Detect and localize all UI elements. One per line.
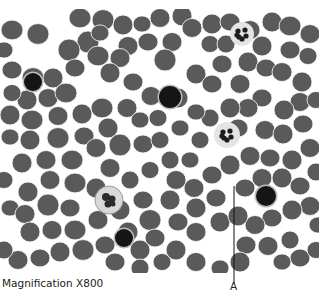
red-blood-cell	[201, 35, 219, 52]
red-blood-cell	[154, 49, 176, 71]
red-blood-cell	[50, 242, 70, 262]
red-blood-cell	[72, 240, 94, 261]
red-blood-cell	[91, 98, 113, 118]
red-blood-cell	[86, 139, 106, 158]
red-blood-cell	[18, 182, 38, 202]
red-blood-cell	[138, 33, 158, 51]
red-blood-cell	[272, 63, 292, 82]
red-blood-cell	[290, 177, 310, 195]
red-blood-cell	[300, 197, 320, 216]
red-blood-cell	[307, 91, 325, 108]
red-blood-cell	[58, 39, 80, 61]
red-blood-cell	[235, 179, 255, 197]
neutrophil-cell	[230, 22, 254, 46]
red-blood-cell	[105, 253, 125, 271]
red-blood-cell	[274, 100, 294, 120]
red-blood-cell	[3, 84, 21, 101]
red-blood-cell	[307, 241, 325, 258]
pointer-label-a: A	[230, 280, 237, 292]
red-blood-cell	[42, 221, 62, 240]
lymphocyte-cell	[255, 185, 278, 208]
red-blood-cell	[220, 155, 240, 175]
red-blood-cell	[168, 213, 188, 231]
red-blood-cell	[20, 222, 40, 242]
red-blood-cell	[230, 252, 250, 272]
red-blood-cell	[150, 9, 170, 28]
red-blood-cell	[228, 206, 248, 226]
red-blood-cell	[131, 112, 149, 128]
red-blood-cell	[260, 149, 280, 167]
red-blood-cell	[280, 41, 300, 59]
red-blood-cell	[255, 121, 275, 140]
red-blood-cell	[61, 150, 83, 170]
red-blood-cell	[240, 147, 260, 166]
red-blood-cell	[282, 150, 302, 170]
red-blood-cell	[37, 194, 59, 216]
lymphocyte-cell	[114, 228, 135, 249]
red-blood-cell	[27, 24, 49, 45]
red-blood-cell	[300, 25, 320, 44]
red-blood-cell	[65, 59, 85, 77]
red-blood-cell	[133, 191, 153, 209]
red-blood-cell	[300, 139, 320, 158]
red-blood-cell	[100, 63, 120, 83]
red-blood-cell	[55, 83, 77, 103]
red-blood-cell	[171, 120, 189, 136]
red-blood-cell	[293, 115, 313, 133]
red-blood-cell	[262, 12, 282, 32]
red-blood-cell	[238, 99, 258, 118]
red-blood-cell	[258, 237, 278, 256]
red-blood-cell	[202, 166, 222, 184]
red-blood-cell	[149, 109, 167, 126]
red-blood-cell	[184, 179, 204, 198]
red-blood-cell	[64, 173, 86, 193]
red-blood-cell	[64, 220, 86, 240]
red-blood-cell	[30, 249, 50, 267]
red-blood-cell	[95, 236, 115, 254]
red-blood-cell	[12, 153, 32, 173]
red-blood-cell	[69, 8, 91, 28]
red-blood-cell	[151, 131, 169, 148]
red-blood-cell	[273, 124, 293, 144]
red-blood-cell	[139, 210, 161, 231]
red-blood-cell	[272, 168, 292, 188]
red-blood-cell	[121, 171, 139, 189]
red-blood-cell	[72, 104, 92, 124]
red-blood-cell	[187, 104, 205, 120]
red-blood-cell	[48, 107, 68, 126]
red-blood-cell	[166, 171, 186, 190]
red-blood-cell	[252, 36, 272, 56]
red-blood-cell	[186, 198, 206, 218]
red-blood-cell	[309, 217, 327, 233]
red-blood-cell	[160, 190, 180, 210]
red-blood-cell	[182, 19, 202, 38]
red-blood-cell	[202, 75, 222, 93]
red-blood-cell	[191, 131, 209, 148]
red-blood-cell	[273, 254, 291, 270]
red-blood-cell	[220, 98, 240, 118]
red-blood-cell	[292, 72, 312, 92]
red-blood-cell	[211, 260, 229, 276]
red-blood-cell	[141, 161, 159, 178]
magnification-caption: Magnification X800	[2, 277, 103, 289]
red-blood-cell	[299, 47, 317, 64]
red-blood-cell	[109, 134, 131, 156]
red-blood-cell	[133, 16, 151, 32]
red-blood-cell	[206, 189, 226, 207]
red-blood-cell	[133, 135, 153, 153]
red-blood-cell	[230, 75, 250, 94]
red-blood-cell	[236, 236, 256, 254]
red-blood-cell	[166, 240, 186, 260]
monocyte-cell	[95, 186, 123, 214]
red-blood-cell	[2, 61, 22, 79]
red-blood-cell	[131, 259, 149, 277]
red-blood-cell	[212, 55, 232, 73]
red-blood-cell	[36, 151, 56, 170]
red-blood-cell	[279, 16, 301, 36]
red-blood-cell	[181, 152, 199, 168]
red-blood-cell	[113, 15, 133, 35]
red-blood-cell	[210, 212, 230, 232]
neutrophil-cell	[214, 122, 240, 148]
red-blood-cell	[161, 151, 179, 169]
blood-smear-micrograph	[0, 0, 327, 296]
